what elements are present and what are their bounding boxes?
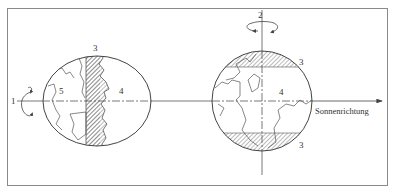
zone-label-twilight-top: 3 xyxy=(299,57,304,67)
figure-frame xyxy=(8,9,388,186)
right-globe xyxy=(210,10,314,175)
zone-label-twilight: 3 xyxy=(93,43,98,53)
axis-label-1: 1 xyxy=(11,96,16,106)
zone-label-night: 5 xyxy=(59,86,64,96)
left-globe xyxy=(21,50,151,150)
solar-illumination-diagram: 1 5 3 4 2 3 4 3 Sonnenrichtung xyxy=(0,0,394,193)
axis-label-2: 2 xyxy=(258,10,263,20)
zone-label-day: 4 xyxy=(119,86,124,96)
sun-direction-label: Sonnenrichtung xyxy=(315,106,370,116)
rotation-arrow-icon xyxy=(21,92,32,116)
zone-label-day: 4 xyxy=(279,87,284,97)
zone-label-twilight-bottom: 3 xyxy=(299,140,304,150)
